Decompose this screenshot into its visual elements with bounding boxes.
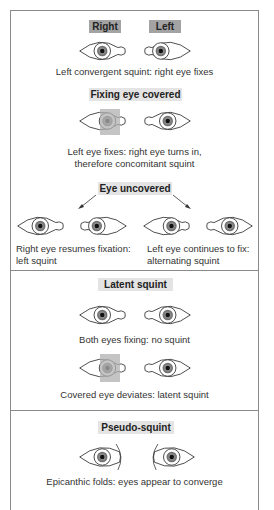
caption-left-convergent: Left convergent squint: right eye fixes	[10, 66, 259, 78]
left-eye-latent-fixing-icon	[140, 302, 192, 328]
caption-both-eyes-fixing: Both eyes fixing: no squint	[10, 334, 259, 346]
occluder-cover	[100, 109, 120, 135]
left-eye-continues-icon	[202, 213, 254, 239]
label-latent-squint: Latent squint	[98, 278, 173, 291]
label-pseudo-squint: Pseudo-squint	[98, 421, 174, 434]
caption-covered-deviates: Covered eye deviates: latent squint	[10, 389, 259, 401]
caption-left-eye-fixes-2: therefore concomitant squint	[10, 158, 259, 170]
left-eye-squinting-icon	[76, 213, 128, 239]
caption-right-resumes-1: Right eye resumes fixation:	[16, 243, 131, 255]
occluder-cover-latent	[100, 354, 120, 382]
label-eye-uncovered: Eye uncovered	[98, 182, 172, 195]
left-eye-converged-icon	[140, 38, 192, 64]
section-divider-2	[10, 410, 259, 411]
right-eye-resumes-icon	[16, 213, 68, 239]
left-eye-latent-icon	[140, 355, 192, 381]
right-eye-epicanthic-icon	[78, 442, 130, 472]
right-eye-icon	[78, 38, 130, 64]
section-divider-1	[10, 270, 259, 271]
caption-left-continues-2: alternating squint	[147, 255, 219, 267]
arrow-right-icon	[171, 193, 193, 211]
arrow-left-icon	[76, 193, 98, 211]
right-eye-alternating-icon	[142, 213, 194, 239]
caption-left-continues-1: Left eye continues to fix:	[147, 243, 249, 255]
label-right: Right	[89, 20, 121, 33]
right-eye-latent-fixing-icon	[78, 302, 130, 328]
left-eye-epicanthic-icon	[144, 442, 196, 472]
caption-left-eye-fixes-1: Left eye fixes: right eye turns in,	[10, 146, 259, 158]
label-fixing-eye-covered: Fixing eye covered	[89, 88, 182, 101]
left-eye-fixing-icon	[140, 108, 192, 134]
caption-epicanthic-folds: Epicanthic folds: eyes appear to converg…	[10, 476, 259, 488]
caption-right-resumes-2: left squint	[16, 255, 57, 267]
label-left: Left	[149, 20, 181, 33]
